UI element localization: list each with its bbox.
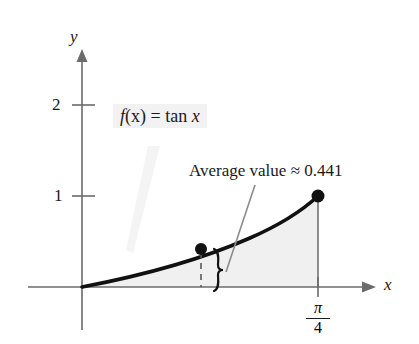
figure-container: y x 2 1 π 4 f(x) = tan x Average value ≈… (0, 0, 419, 344)
x-tick-label-pi-over-4: π 4 (306, 300, 330, 337)
endpoint-point (312, 190, 325, 203)
function-label-arg: (x) (125, 106, 146, 126)
y-axis-label: y (70, 28, 78, 45)
function-label: f(x) = tan x (113, 104, 207, 128)
x-axis-label: x (384, 276, 392, 293)
function-label-leader (126, 146, 160, 253)
average-value-annotation: Average value ≈ 0.441 (189, 162, 342, 179)
y-tick-label-2: 2 (52, 96, 61, 113)
function-label-var: x (192, 106, 200, 126)
x-axis-arrowhead (362, 282, 376, 293)
function-label-equals: = (146, 106, 165, 126)
average-value-point (195, 243, 207, 255)
fraction-denominator: 4 (306, 320, 330, 337)
fraction-numerator: π (306, 300, 330, 317)
shaded-region (82, 196, 318, 287)
y-tick-label-1: 1 (54, 187, 63, 204)
y-axis-arrowhead (77, 49, 88, 62)
function-label-tan: tan (165, 106, 192, 126)
